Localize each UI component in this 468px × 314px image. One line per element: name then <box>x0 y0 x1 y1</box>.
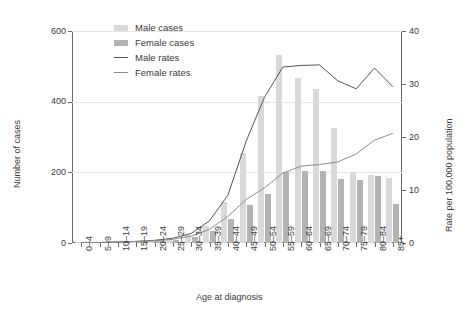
rate-line <box>81 65 393 243</box>
x-tick <box>136 243 137 247</box>
x-tick <box>356 243 357 247</box>
x-tick-label: 10–14 <box>122 226 131 251</box>
y2-tick <box>402 84 406 85</box>
x-tick-label: 5–9 <box>104 236 113 251</box>
y-tick-label: 0 <box>26 239 66 248</box>
x-tick-label: 50–54 <box>269 226 278 251</box>
y2-tick-label: 30 <box>409 80 449 89</box>
y2-tick <box>402 31 406 32</box>
x-tick <box>320 243 321 247</box>
x-tick <box>173 243 174 247</box>
chart-figure: Number of cases Rate per 100,000 populat… <box>0 0 468 314</box>
y-tick-label: 600 <box>26 27 66 36</box>
x-tick <box>100 243 101 247</box>
x-tick-label: 40–44 <box>232 226 241 251</box>
x-tick <box>228 243 229 247</box>
y2-tick-label: 0 <box>409 239 449 248</box>
x-tick <box>155 243 156 247</box>
x-tick <box>301 243 302 247</box>
y-axis-title: Number of cases <box>12 120 22 188</box>
x-tick-label: 15–19 <box>140 226 149 251</box>
legend-swatch-male-cases-icon <box>114 25 128 31</box>
x-tick <box>375 243 376 247</box>
plot-area <box>72 31 402 243</box>
x-tick-label: 45–49 <box>250 226 259 251</box>
x-tick <box>210 243 211 247</box>
x-tick <box>81 243 82 247</box>
lines-layer <box>72 31 402 243</box>
x-tick <box>265 243 266 247</box>
y-tick <box>68 172 72 173</box>
x-tick-label: 20–24 <box>159 226 168 251</box>
x-tick-label: 30–34 <box>195 226 204 251</box>
y-tick-label: 200 <box>26 168 66 177</box>
y2-tick <box>402 190 406 191</box>
y-tick <box>68 243 72 244</box>
x-axis-title: Age at diagnosis <box>196 292 263 302</box>
y-tick-label: 400 <box>26 97 66 106</box>
y2-tick-label: 20 <box>409 133 449 142</box>
y-tick <box>68 102 72 103</box>
x-tick-label: 80–84 <box>379 226 388 251</box>
x-tick <box>338 243 339 247</box>
x-tick <box>246 243 247 247</box>
y2-tick-label: 40 <box>409 27 449 36</box>
y2-tick <box>402 137 406 138</box>
x-tick-label: 55–59 <box>287 226 296 251</box>
x-tick-label: 75–79 <box>360 226 369 251</box>
x-tick-label: 65–69 <box>324 226 333 251</box>
x-tick-label: 0–4 <box>85 236 94 251</box>
y-tick <box>68 31 72 32</box>
x-tick <box>393 243 394 247</box>
x-tick-label: 85+ <box>397 236 406 251</box>
x-tick-label: 60–64 <box>305 226 314 251</box>
x-tick-label: 35–39 <box>214 226 223 251</box>
x-tick-label: 25–29 <box>177 226 186 251</box>
x-tick <box>191 243 192 247</box>
x-tick <box>118 243 119 247</box>
x-tick <box>283 243 284 247</box>
y2-tick-label: 10 <box>409 186 449 195</box>
x-tick-label: 70–74 <box>342 226 351 251</box>
